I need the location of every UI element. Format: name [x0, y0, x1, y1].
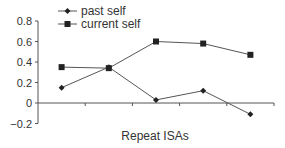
y-tick-label: 0.8 [17, 15, 32, 27]
y-tick-label: 0.6 [17, 36, 32, 48]
y-axis: 0.80.60.40.20−0.2 [10, 15, 38, 130]
square-marker-icon [65, 21, 71, 27]
series-current-self [59, 39, 254, 72]
legend-label: current self [81, 17, 141, 31]
series-group [59, 39, 254, 118]
x-axis [38, 103, 274, 106]
series-past-self [59, 64, 254, 117]
y-tick-label: 0.2 [17, 77, 32, 89]
y-tick-label: −0.2 [10, 118, 32, 130]
legend-label: past self [81, 4, 126, 18]
legend: past selfcurrent self [58, 4, 141, 31]
legend-item-current-self: current self [58, 17, 141, 31]
square-marker-icon [153, 39, 159, 45]
square-marker-icon [200, 41, 206, 47]
diamond-marker-icon [200, 88, 206, 94]
legend-item-past-self: past self [58, 4, 126, 18]
line-chart: 0.80.60.40.20−0.2 past selfcurrent self … [0, 0, 285, 148]
diamond-marker-icon [65, 8, 71, 14]
diamond-marker-icon [153, 97, 159, 103]
square-marker-icon [59, 64, 65, 70]
y-tick-label: 0.4 [17, 56, 32, 68]
diamond-marker-icon [59, 85, 65, 91]
x-axis-title: Repeat ISAs [121, 129, 188, 143]
square-marker-icon [247, 52, 253, 58]
square-marker-icon [106, 65, 112, 71]
diamond-marker-icon [247, 111, 253, 117]
y-tick-label: 0 [26, 97, 32, 109]
